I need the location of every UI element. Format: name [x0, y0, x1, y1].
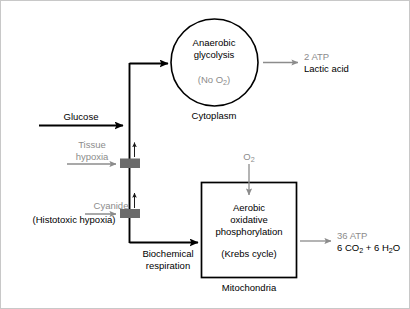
label-aerobic-line2: oxidative: [230, 214, 268, 225]
label-aerobic-line3: phosphorylation: [215, 226, 282, 237]
label-biochemical-respiration: Biochemical respiration: [142, 248, 193, 272]
label-no-oxygen-suffix: ): [227, 74, 230, 85]
label-histotoxic-hypoxia: (Histotoxic hypoxia): [33, 214, 116, 226]
label-tissue-hypoxia-line2: hypoxia: [76, 151, 109, 162]
label-h2o-suffix: O: [393, 242, 400, 253]
label-2-atp: 2 ATP: [304, 51, 329, 63]
label-aerobic-oxidative-phosphorylation: Aerobic oxidative phosphorylation: [215, 202, 282, 238]
label-mitochondria: Mitochondria: [222, 282, 276, 294]
inhibition-block-tissue-hypoxia: [120, 159, 140, 169]
label-36-atp: 36 ATP: [337, 230, 367, 242]
label-anaerobic-glycolysis-line2: glycolysis: [194, 49, 235, 60]
label-no-oxygen-prefix: (No O: [198, 74, 223, 85]
label-tissue-hypoxia: Tissue hypoxia: [76, 139, 109, 163]
label-krebs-cycle: (Krebs cycle): [221, 248, 276, 260]
label-cyanide: Cyanide: [94, 200, 129, 212]
label-anaerobic-glycolysis: Anaerobic glycolysis: [193, 37, 236, 61]
label-aerobic-line1: Aerobic: [233, 202, 265, 213]
label-oxygen: O2: [243, 151, 254, 165]
label-tissue-hypoxia-line1: Tissue: [78, 139, 106, 150]
label-no-oxygen: (No O2): [198, 74, 231, 88]
label-lactic-acid: Lactic acid: [304, 63, 349, 75]
label-anaerobic-glycolysis-line1: Anaerobic: [193, 37, 236, 48]
label-glucose: Glucose: [64, 111, 99, 123]
label-co2-h2o: 6 CO2 + 6 H2O: [337, 242, 400, 256]
label-oxygen-subscript: 2: [251, 155, 255, 164]
diagram-canvas: Glucose Tissue hypoxia Cyanide (Histotox…: [0, 0, 410, 309]
label-biochemical-respiration-line1: Biochemical: [142, 248, 193, 259]
label-biochemical-respiration-line2: respiration: [146, 260, 190, 271]
label-product-mid: + 6 H: [363, 242, 389, 253]
label-co2-prefix: 6 CO: [337, 242, 359, 253]
label-cytoplasm: Cytoplasm: [192, 110, 237, 122]
anaerobic-glycolysis-circle: [171, 19, 258, 106]
